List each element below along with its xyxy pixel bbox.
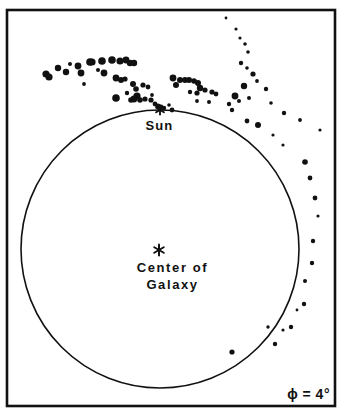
hydrogen-cloud-dot [273,342,277,346]
hydrogen-cloud-dot [137,97,143,103]
hydrogen-cloud-dot [186,77,192,83]
hydrogen-cloud-dot [133,86,139,92]
hydrogen-cloud-dot [237,99,241,103]
hydrogen-cloud-dot [45,73,52,80]
hydrogen-cloud-dot [96,68,100,72]
hydrogen-cloud-dot [246,50,250,54]
hydrogen-cloud-dot [63,69,69,75]
hydrogen-cloud-dot [128,97,134,103]
hydrogen-cloud-dot [282,111,286,115]
hydrogen-cloud-dot [230,108,234,112]
hydrogen-cloud-dot [269,101,273,105]
hydrogen-cloud-dot [148,97,153,102]
hydrogen-cloud-dot [227,102,231,106]
hydrogen-cloud-dot [202,87,207,92]
hydrogen-cloud-dot [86,58,94,66]
hydrogen-cloud-dot [271,133,274,136]
hydrogen-cloud-dot [238,36,241,39]
hydrogen-cloud-dot [243,42,247,46]
galaxy-center-label-line1: Center of [0,260,346,275]
hydrogen-cloud-dot [232,93,239,100]
hydrogen-cloud-dot [247,96,251,100]
galaxy-spiral-arm-figure: Sun Center of Galaxy ϕ = 4° [0,0,347,415]
hydrogen-cloud-dot [146,85,151,90]
hydrogen-cloud-dot [170,108,175,113]
hydrogen-cloud-dot [255,79,259,83]
hydrogen-cloud-dot [264,87,268,91]
hydrogen-cloud-dot [123,57,130,64]
hydrogen-cloud-dot [167,103,171,107]
hydrogen-cloud-dot [225,17,228,20]
hydrogen-cloud-dot [101,70,108,77]
hydrogen-cloud-dot [194,90,199,95]
hydrogen-cloud-dot [173,82,179,88]
hydrogen-cloud-dot [229,349,234,354]
galaxy-center-label-line2: Galaxy [0,277,346,292]
hydrogen-cloud-dot [245,66,249,70]
hydrogen-cloud-dot [214,92,219,97]
canvas-background [0,0,347,415]
hydrogen-cloud-dot [281,143,284,146]
hydrogen-cloud-dot [197,85,203,91]
hydrogen-cloud-dot [313,196,318,201]
hydrogen-cloud-dot [308,176,313,181]
hydrogen-cloud-dot [250,71,255,76]
hydrogen-cloud-dot [55,65,61,71]
hydrogen-cloud-dot [195,99,199,103]
hydrogen-cloud-dot [122,76,127,81]
sun-label: Sun [0,118,333,133]
hydrogen-cloud-dot [207,100,211,104]
hydrogen-cloud-dot [150,93,154,97]
hydrogen-cloud-dot [234,27,237,30]
hydrogen-cloud-dot [140,82,145,87]
hydrogen-cloud-dot [98,57,106,65]
hydrogen-cloud-dot [131,60,137,66]
hydrogen-cloud-dot [316,214,319,217]
hydrogen-cloud-dot [302,302,306,306]
hydrogen-cloud-dot [289,325,293,329]
hydrogen-cloud-dot [68,62,72,66]
hydrogen-cloud-dot [130,81,136,87]
hydrogen-cloud-dot [116,57,123,64]
hydrogen-cloud-dot [142,96,147,101]
hydrogen-cloud-dot [311,239,315,243]
hydrogen-cloud-dot [112,94,120,102]
hydrogen-cloud-dot [108,56,116,64]
hydrogen-cloud-dot [125,91,129,95]
hydrogen-cloud-dot [302,159,308,165]
hydrogen-cloud-dot [281,328,284,331]
hydrogen-cloud-dot [75,63,82,70]
hydrogen-cloud-dot [82,82,86,86]
hydrogen-cloud-dot [241,83,247,89]
hydrogen-cloud-dot [170,75,177,82]
hydrogen-cloud-dot [78,70,85,77]
hydrogen-cloud-dot [188,90,192,94]
hydrogen-cloud-dot [296,309,299,312]
hydrogen-cloud-dot [266,325,269,328]
figure-canvas [0,0,347,415]
hydrogen-cloud-dot [239,61,243,65]
phi-annotation-label: ϕ = 4° [287,386,330,402]
